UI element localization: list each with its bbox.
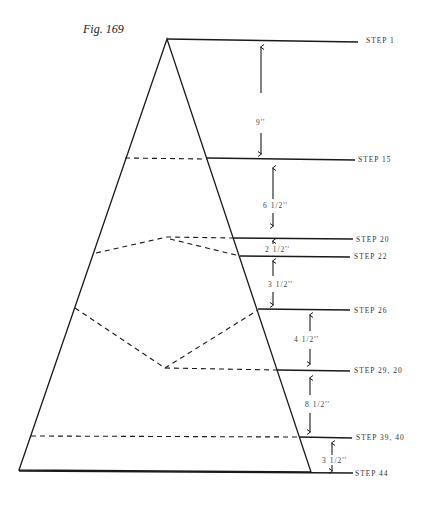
lower-shaping-dashed <box>75 308 258 368</box>
step-29-dashed <box>165 368 277 370</box>
dimension-label: 3 1/2'' <box>268 280 293 289</box>
dimension-label: 9'' <box>256 118 265 127</box>
step-39-dashed <box>31 436 300 437</box>
step-1-line <box>167 39 358 42</box>
step-39-line <box>300 437 352 438</box>
dimension-label: 6 1/2'' <box>263 201 288 210</box>
dimension-label: 4 1/2'' <box>294 335 319 344</box>
step-label: STEP 1 <box>366 36 395 45</box>
step-15-line <box>207 158 355 160</box>
step-26-line <box>258 309 350 310</box>
step-20-line <box>234 238 353 239</box>
dimension-label: 8 1/2'' <box>305 400 330 409</box>
step-label: STEP 44 <box>355 469 389 478</box>
step-22-line <box>240 256 350 257</box>
step-label: STEP 29, 20 <box>354 366 403 375</box>
step-29-line <box>277 370 350 371</box>
dimension-label: 2 1/2'' <box>265 245 290 254</box>
figure-title: Fig. 169 <box>83 22 124 37</box>
step-label: STEP 20 <box>356 235 390 244</box>
step-15-dashed <box>125 158 207 159</box>
step-label: STEP 22 <box>354 252 388 261</box>
upper-shaping-dashed-2 <box>170 239 240 256</box>
step-label: STEP 39, 40 <box>356 433 405 442</box>
step-label: STEP 15 <box>358 155 392 164</box>
upper-shaping-dashed <box>96 237 234 253</box>
dimension-label: 3 1/2'' <box>322 456 347 465</box>
step-label: STEP 26 <box>354 306 388 315</box>
cone-outline <box>19 39 311 472</box>
